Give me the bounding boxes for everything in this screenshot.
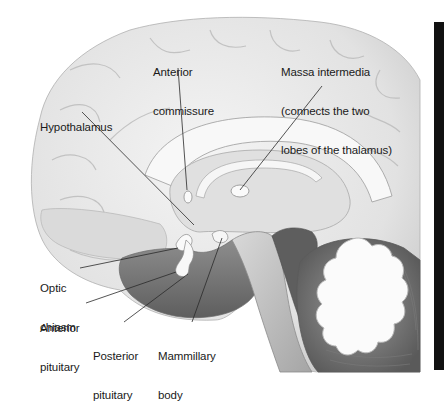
label-line: pituitary bbox=[40, 361, 79, 374]
label-line: Massa intermedia bbox=[281, 66, 392, 79]
label-line: Anterior bbox=[153, 66, 214, 79]
label-mammillary-body: Mammillary body bbox=[158, 324, 216, 405]
label-line: Anterior bbox=[40, 322, 79, 335]
label-line: Mammillary bbox=[158, 350, 216, 363]
label-line: lobes of the thalamus) bbox=[281, 144, 392, 157]
label-line: Optic bbox=[40, 282, 76, 295]
label-line: Posterior bbox=[93, 350, 138, 363]
label-line: Hypothalamus bbox=[40, 121, 112, 134]
anterior-commissure-structure bbox=[184, 191, 192, 203]
label-massa-intermedia: Massa intermedia (connects the two lobes… bbox=[281, 40, 392, 183]
label-anterior-pituitary: Anterior pituitary bbox=[40, 296, 79, 400]
massa-intermedia-structure bbox=[231, 185, 249, 197]
label-line: pituitary bbox=[93, 389, 138, 402]
label-line: commissure bbox=[153, 105, 214, 118]
label-hypothalamus: Hypothalamus bbox=[40, 95, 112, 160]
side-black-bar bbox=[434, 22, 444, 370]
label-line: (connects the two bbox=[281, 105, 392, 118]
label-anterior-commissure: Anterior commissure bbox=[153, 40, 214, 144]
label-line: body bbox=[158, 389, 216, 402]
label-posterior-pituitary: Posterior pituitary bbox=[93, 324, 138, 405]
